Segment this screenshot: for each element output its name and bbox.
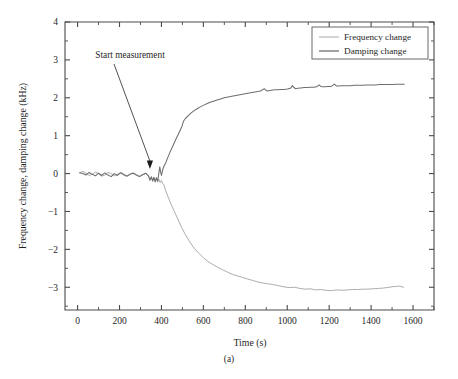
y-tick-label: −2 [48,245,58,255]
line-chart: 02004006008001000120014001600−3−2−101234… [0,0,458,379]
y-axis-title: Frequency change, damping change (kHz) [17,83,29,249]
x-tick-label: 1600 [404,316,423,326]
y-tick-label: 2 [53,93,58,103]
x-tick-label: 0 [75,316,80,326]
y-tick-label: −3 [48,283,58,293]
x-axis-title: Time (s) [233,337,266,349]
annotation-layer: Start measurement [95,50,165,169]
y-tick-label: 0 [53,169,58,179]
figure-caption: (a) [224,354,234,365]
annotation-arrow-line [114,64,150,161]
chart-legend: Frequency changeDamping change [312,27,428,59]
annotation-arrow-head [147,161,153,170]
x-tick-label: 800 [238,316,253,326]
y-tick-label: 3 [53,55,58,65]
x-tick-label: 200 [112,316,127,326]
series-line-damping-change [80,84,405,182]
x-tick-label: 1000 [278,316,297,326]
x-tick-label: 1200 [320,316,339,326]
series-line-frequency-change [80,171,404,290]
y-tick-label: 1 [53,131,58,141]
axes-layer: 02004006008001000120014001600−3−2−101234 [48,17,434,326]
figure-panel: 02004006008001000120014001600−3−2−101234… [0,0,458,379]
series-layer [80,84,405,291]
y-tick-label: 4 [53,17,58,27]
annotation-label: Start measurement [95,50,165,60]
y-tick-label: −1 [48,207,58,217]
x-tick-label: 600 [196,316,211,326]
legend-label-0: Frequency change [344,32,411,42]
legend-label-1: Damping change [344,46,407,56]
x-tick-label: 1400 [362,316,381,326]
plot-frame [65,22,434,310]
x-tick-label: 400 [154,316,169,326]
